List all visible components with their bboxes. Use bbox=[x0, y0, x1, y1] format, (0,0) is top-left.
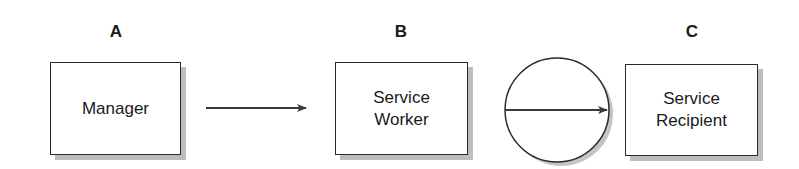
connectors-layer bbox=[0, 0, 799, 169]
service-delivery-circle-icon bbox=[505, 58, 613, 166]
